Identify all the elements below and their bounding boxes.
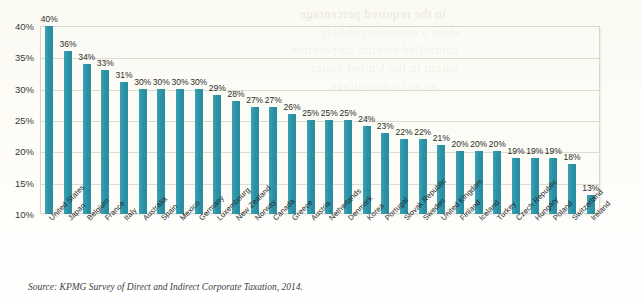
bar-slot[interactable]: 20% xyxy=(451,26,470,214)
bar-value-label: 21% xyxy=(433,133,450,143)
bar-value-label: 20% xyxy=(470,139,487,149)
y-axis-tick-label: 25% xyxy=(15,115,34,126)
bar-slot[interactable]: 18% xyxy=(563,26,582,214)
y-axis-tick-label: 15% xyxy=(15,177,34,188)
bar-slot[interactable]: 25% xyxy=(301,26,320,214)
bar-slot[interactable]: 23% xyxy=(376,26,395,214)
bar-value-label: 27% xyxy=(265,95,282,105)
bar-slot[interactable]: 31% xyxy=(115,26,134,214)
bar-slot[interactable]: 30% xyxy=(133,26,152,214)
bar-value-label: 22% xyxy=(395,127,412,137)
bar-value-label: 29% xyxy=(209,83,226,93)
bar-value-label: 25% xyxy=(302,108,319,118)
bars-layer: 40%36%34%33%31%30%30%30%30%29%28%27%27%2… xyxy=(40,26,600,214)
bar-slot[interactable]: 13% xyxy=(581,26,600,214)
bar[interactable] xyxy=(139,89,147,214)
bar-slot[interactable]: 30% xyxy=(152,26,171,214)
y-axis-tick-label: 35% xyxy=(15,52,34,63)
bar-slot[interactable]: 26% xyxy=(283,26,302,214)
bar-value-label: 22% xyxy=(414,127,431,137)
bar[interactable] xyxy=(120,82,128,214)
bar-slot[interactable]: 22% xyxy=(413,26,432,214)
bar[interactable] xyxy=(195,89,203,214)
bar[interactable] xyxy=(64,51,72,214)
bar-slot[interactable]: 40% xyxy=(40,26,59,214)
y-axis: 40%35%30%25%20%15%10% xyxy=(0,26,38,214)
bar-value-label: 25% xyxy=(339,108,356,118)
bar[interactable] xyxy=(101,70,109,214)
bar-value-label: 19% xyxy=(545,146,562,156)
bar-slot[interactable]: 27% xyxy=(245,26,264,214)
bar-slot[interactable]: 25% xyxy=(320,26,339,214)
bar-value-label: 23% xyxy=(377,121,394,131)
bar[interactable] xyxy=(176,89,184,214)
bar[interactable] xyxy=(381,133,389,214)
bar-slot[interactable]: 29% xyxy=(208,26,227,214)
bar-value-label: 20% xyxy=(489,139,506,149)
bar-value-label: 19% xyxy=(526,146,543,156)
bar-value-label: 19% xyxy=(507,146,524,156)
bar-value-label: 30% xyxy=(134,77,151,87)
y-axis-tick-label: 40% xyxy=(15,21,34,32)
bar-value-label: 30% xyxy=(190,77,207,87)
bar-slot[interactable]: 33% xyxy=(96,26,115,214)
bar-value-label: 34% xyxy=(78,52,95,62)
bar-value-label: 31% xyxy=(115,70,132,80)
bar-value-label: 27% xyxy=(246,95,263,105)
bar-slot[interactable]: 19% xyxy=(525,26,544,214)
bar-value-label: 36% xyxy=(59,39,76,49)
bar-slot[interactable]: 19% xyxy=(507,26,526,214)
bar-value-label: 18% xyxy=(563,152,580,162)
bar-slot[interactable]: 24% xyxy=(357,26,376,214)
bar-slot[interactable]: 25% xyxy=(339,26,358,214)
bar-value-label: 30% xyxy=(171,77,188,87)
corporate-tax-rate-bar-chart: 40%35%30%25%20%15%10% 40%36%34%33%31%30%… xyxy=(0,0,641,303)
bar-slot[interactable]: 22% xyxy=(395,26,414,214)
y-axis-tick-label: 30% xyxy=(15,83,34,94)
y-axis-tick-label: 10% xyxy=(15,209,34,220)
bar-value-label: 33% xyxy=(97,58,114,68)
bar-slot[interactable]: 28% xyxy=(227,26,246,214)
bar-value-label: 24% xyxy=(358,114,375,124)
y-axis-tick-label: 20% xyxy=(15,146,34,157)
bar-value-label: 30% xyxy=(153,77,170,87)
x-axis-labels: United StatesJapanBelgiumFranceItalyAust… xyxy=(40,216,600,278)
bar-value-label: 20% xyxy=(451,139,468,149)
bar-value-label: 40% xyxy=(41,14,58,24)
source-caption: Source: KPMG Survey of Direct and Indire… xyxy=(28,282,303,292)
bar-value-label: 28% xyxy=(227,89,244,99)
bar-slot[interactable]: 30% xyxy=(171,26,190,214)
bar-value-label: 25% xyxy=(321,108,338,118)
bar-slot[interactable]: 36% xyxy=(59,26,78,214)
bar-slot[interactable]: 30% xyxy=(189,26,208,214)
bar-value-label: 26% xyxy=(283,102,300,112)
bar[interactable] xyxy=(45,26,53,214)
bar-slot[interactable]: 20% xyxy=(488,26,507,214)
